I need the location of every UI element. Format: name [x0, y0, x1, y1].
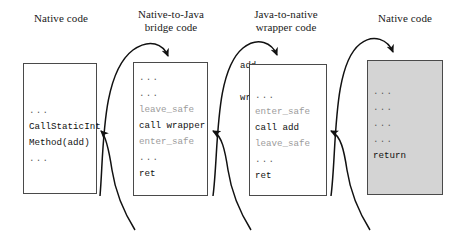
code-line: ...	[373, 132, 442, 148]
column-title-line1: Native code	[16, 12, 106, 25]
column-title-native-callee: Native code	[360, 12, 450, 25]
column-title-line2: bridge code	[125, 21, 217, 34]
code-line: ...	[139, 86, 207, 102]
column-title-bridge: Native-to-Java bridge code	[125, 8, 217, 33]
return-to-wrapper-arrow	[331, 131, 370, 230]
code-line: ...	[255, 152, 326, 168]
code-line: ...	[139, 150, 207, 166]
native-callee-code-box: ............return	[367, 60, 443, 195]
code-line: call add	[255, 120, 326, 136]
return-to-bridge-arrow	[213, 131, 251, 230]
code-line: ...	[29, 151, 96, 167]
column-title-line1: Java-to-native	[238, 8, 334, 21]
code-line	[29, 87, 96, 103]
code-line: ...	[255, 88, 326, 104]
code-line: return	[373, 148, 442, 164]
diagram-canvas: Native code Native-to-Java bridge code J…	[0, 0, 459, 236]
column-title-line1: Native-to-Java	[125, 8, 217, 21]
bridge-code-box: ......leave_safecall wrapperenter_safe..…	[133, 62, 208, 196]
code-line: ...	[373, 116, 442, 132]
code-line: ...	[373, 100, 442, 116]
column-title-line2: wrapper code	[238, 21, 334, 34]
column-title-native-caller: Native code	[16, 12, 106, 25]
code-line: ret	[139, 166, 207, 182]
code-line: Method(add)	[29, 135, 96, 151]
code-line: leave_safe	[255, 136, 326, 152]
native-caller-code-box: ...CallStaticIntMethod(add)...	[23, 63, 97, 194]
column-title-line1: Native code	[360, 12, 450, 25]
code-line: ...	[29, 103, 96, 119]
code-line: ret	[255, 168, 326, 184]
code-line: ...	[373, 84, 442, 100]
column-title-wrapper: Java-to-native wrapper code	[238, 8, 334, 33]
code-line: call wrapper	[139, 118, 207, 134]
code-line: enter_safe	[139, 134, 207, 150]
code-line	[255, 72, 326, 88]
return-to-caller-arrow	[101, 131, 135, 230]
code-line: ...	[139, 70, 207, 86]
code-line	[29, 71, 96, 87]
code-line	[373, 68, 442, 84]
code-line: CallStaticInt	[29, 119, 96, 135]
code-line: leave_safe	[139, 102, 207, 118]
wrapper-code-box: ...enter_safecall addleave_safe...ret	[249, 64, 327, 196]
code-line: enter_safe	[255, 104, 326, 120]
